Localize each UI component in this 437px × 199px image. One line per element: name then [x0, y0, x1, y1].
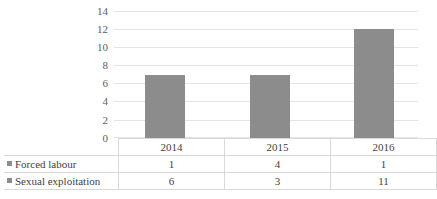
cell-sexual-exploitation-2014: 6 [119, 173, 225, 190]
y-axis-tick-6: 6 [84, 78, 108, 89]
plot-area [114, 11, 418, 138]
legend-item-sexual-exploitation: Sexual exploitation [4, 173, 119, 190]
bar-2014 [145, 75, 185, 139]
table-header-2014: 2014 [119, 139, 225, 156]
cell-sexual-exploitation-2015: 3 [225, 173, 331, 190]
cell-forced-labour-2016: 1 [331, 156, 437, 173]
legend-square-icon [7, 178, 12, 183]
y-axis-tick-2: 2 [84, 115, 108, 126]
cell-forced-labour-2015: 4 [225, 156, 331, 173]
cell-forced-labour-2014: 1 [119, 156, 225, 173]
y-axis-tick-14: 14 [84, 6, 108, 17]
table-header-row: 2014 2015 2016 [4, 139, 437, 156]
cell-sexual-exploitation-2016: 11 [331, 173, 437, 190]
legend-label-forced-labour: Forced labour [15, 159, 76, 171]
data-table: 2014 2015 2016 Forced labour 1 4 1 Sexua… [4, 138, 437, 190]
y-axis-tick-12: 12 [84, 24, 108, 35]
bar-2015 [250, 75, 290, 139]
gridline-14 [114, 11, 418, 12]
legend-square-icon [7, 161, 12, 166]
y-axis: 14 12 10 8 6 4 2 0 [84, 11, 108, 138]
table-header-2016: 2016 [331, 139, 437, 156]
table-row: Forced labour 1 4 1 [4, 156, 437, 173]
table-corner-cell [4, 139, 119, 156]
legend-item-forced-labour: Forced labour [4, 156, 119, 173]
y-axis-tick-4: 4 [84, 96, 108, 107]
table-header-2015: 2015 [225, 139, 331, 156]
y-axis-tick-10: 10 [84, 42, 108, 53]
table-row: Sexual exploitation 6 3 11 [4, 173, 437, 190]
legend-label-sexual-exploitation: Sexual exploitation [15, 176, 100, 188]
y-axis-tick-8: 8 [84, 60, 108, 71]
bar-2016 [354, 29, 394, 138]
